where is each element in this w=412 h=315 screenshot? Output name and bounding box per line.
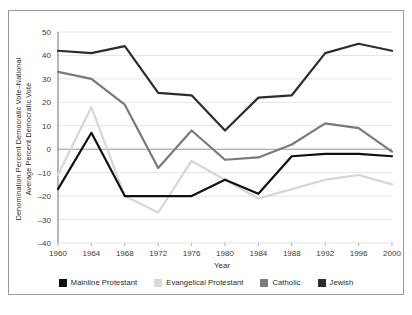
x-tick-label: 1960: [49, 249, 67, 258]
legend-item-label: Mainline Protestant: [71, 278, 137, 287]
x-tick-label: 1996: [350, 249, 368, 258]
legend-swatch-icon: [260, 279, 268, 287]
y-tick-label: 40: [42, 51, 51, 60]
x-tick-label: 1984: [250, 249, 268, 258]
legend-item-label: Jewish: [330, 278, 354, 287]
x-tick-label: 1968: [116, 249, 134, 258]
chart-figure: Denomination Percent Democratic Vote–Nat…: [0, 0, 412, 315]
legend-item: Jewish: [318, 278, 354, 287]
x-axis-title: Year: [214, 261, 231, 270]
x-tick-label: 1992: [316, 249, 334, 258]
legend-item-label: Evangelical Protestant: [166, 278, 243, 287]
y-tick-label: 0: [47, 145, 52, 154]
y-tick-label: –40: [38, 239, 52, 248]
x-tick-label: 1964: [83, 249, 101, 258]
x-tick-labels-group: 1960196419681972197619801984198819921996…: [49, 249, 401, 258]
series-line-mainline-protestant: [58, 133, 392, 196]
gridlines-group: [58, 32, 392, 243]
y-tick-label: –30: [38, 216, 52, 225]
y-tick-labels-group: 50403020100–10–20–30–40: [38, 28, 52, 248]
x-tick-label: 2000: [383, 249, 401, 258]
x-tick-label: 1976: [183, 249, 201, 258]
chart-plot-area: 50403020100–10–20–30–40 1960196419681972…: [0, 0, 412, 315]
x-tick-label: 1980: [216, 249, 234, 258]
chart-legend: Mainline ProtestantEvangelical Protestan…: [8, 278, 404, 287]
legend-swatch-icon: [154, 279, 162, 287]
legend-item: Mainline Protestant: [59, 278, 137, 287]
y-tick-label: –20: [38, 192, 52, 201]
axis-lines-group: [58, 32, 392, 246]
legend-item: Evangelical Protestant: [154, 278, 243, 287]
legend-swatch-icon: [59, 279, 67, 287]
y-tick-label: 20: [42, 98, 51, 107]
x-tick-label: 1988: [283, 249, 301, 258]
y-tick-label: –10: [38, 169, 52, 178]
legend-item-label: Catholic: [272, 278, 300, 287]
y-tick-label: 10: [42, 122, 51, 131]
y-tick-label: 30: [42, 75, 51, 84]
series-line-jewish: [58, 44, 392, 131]
y-tick-label: 50: [42, 28, 51, 37]
x-tick-label: 1972: [149, 249, 167, 258]
legend-item: Catholic: [260, 278, 300, 287]
data-series-group: [58, 44, 392, 213]
legend-swatch-icon: [318, 279, 326, 287]
